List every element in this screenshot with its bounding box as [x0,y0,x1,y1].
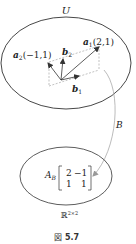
space-u-label: U [62,5,71,16]
svg-text:1: 1 [66,179,72,189]
dashed-parallelogram [49,46,99,86]
vector-b1-label: b1 [72,84,82,95]
matrix-ab: AB 2 −1 1 1 [44,166,91,190]
diagram: U a1(2,1) a2(−1,1) b2 b1 B AB 2 −1 1 1 ℝ… [0,0,136,244]
mapping-b-label: B [115,120,123,130]
figure-caption: 図5.7 [54,233,79,242]
svg-text:−1: −1 [74,168,87,178]
vector-b2-label: b2 [62,47,72,58]
vector-b2-arrow [61,59,63,80]
svg-text:2: 2 [66,168,72,178]
space-u-ellipse [1,17,131,109]
vector-a1-label: a1(2,1) [83,37,114,48]
svg-text:1: 1 [81,179,87,189]
space-r-label: ℝ2×2 [61,210,78,220]
vector-a2-label: a2(−1,1) [13,50,52,61]
vector-a2-arrow [48,63,61,80]
matrix-name: AB [44,170,57,181]
